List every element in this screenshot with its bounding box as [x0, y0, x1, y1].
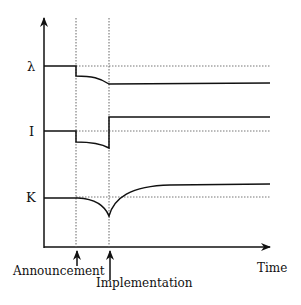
- investment-label: I: [29, 124, 34, 139]
- lambda-curve: [44, 66, 270, 84]
- lambda-label: λ: [27, 59, 35, 74]
- investment-curve: [44, 117, 270, 148]
- announcement-label: Announcement: [12, 264, 105, 278]
- phase-diagram: λ I K Announcement Implementation Time: [0, 0, 301, 305]
- capital-curve: [44, 184, 270, 216]
- time-axis-label: Time: [257, 261, 287, 275]
- capital-label: K: [26, 190, 36, 205]
- implementation-label: Implementation: [96, 276, 193, 290]
